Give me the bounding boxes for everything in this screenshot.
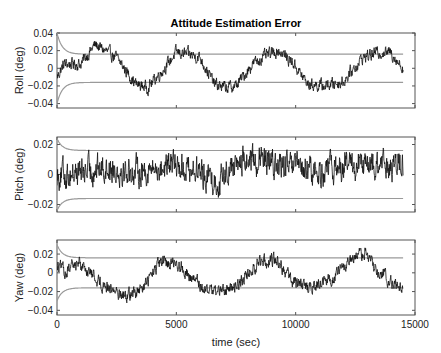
- axes-box-pitch: [57, 137, 415, 212]
- y-tick-label: 0.02: [34, 249, 54, 260]
- x-tick-label: 5000: [165, 319, 188, 330]
- y-tick-label: 0.02: [34, 139, 54, 150]
- y-axis-label-roll: Roll (deg): [13, 47, 25, 95]
- x-axis-label: time (sec): [212, 336, 260, 348]
- x-tick-label: 10000: [282, 319, 310, 330]
- y-axis-label-yaw: Yaw (deg): [13, 253, 25, 302]
- chart-title: Attitude Estimation Error: [171, 17, 303, 29]
- x-tick-label: 0: [54, 319, 60, 330]
- y-axis-label-pitch: Pitch (deg): [13, 148, 25, 201]
- subplot-pitch: 0.020−0.02Pitch (deg): [13, 137, 415, 212]
- y-tick-label: −0.04: [28, 98, 54, 109]
- subplot-roll: 0.040.020−0.02−0.04Roll (deg): [13, 28, 415, 110]
- y-tick-label: −0.02: [28, 80, 54, 91]
- axes-box-roll: [57, 33, 415, 108]
- y-tick-label: 0: [47, 267, 53, 278]
- y-tick-label: 0: [47, 169, 53, 180]
- y-tick-label: −0.02: [28, 199, 54, 210]
- y-tick-label: −0.02: [28, 286, 54, 297]
- y-tick-label: 0.02: [34, 45, 54, 56]
- figure: Attitude Estimation Error 0.040.020−0.02…: [0, 0, 441, 353]
- y-tick-label: −0.04: [28, 305, 54, 316]
- y-tick-label: 0.04: [34, 28, 54, 39]
- y-tick-label: 0: [47, 63, 53, 74]
- subplot-yaw: 0.020−0.02−0.04050001000015000Yaw (deg): [13, 240, 429, 330]
- x-tick-label: 15000: [401, 319, 429, 330]
